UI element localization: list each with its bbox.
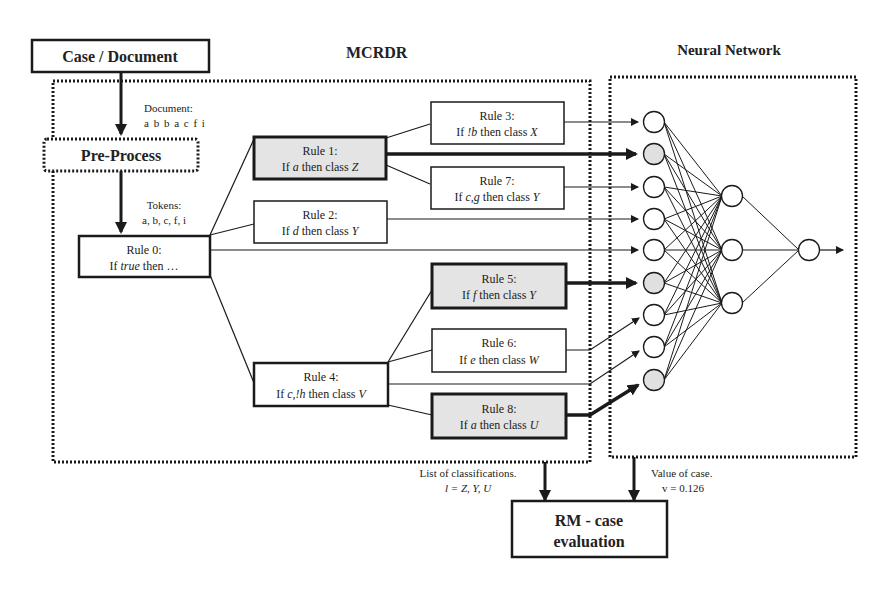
input-node-active <box>644 273 665 294</box>
tokens-note-value: a, b, c, f, i <box>142 214 186 226</box>
input-node <box>644 209 665 230</box>
output-node <box>799 240 820 261</box>
rule8-condition: If a then class U <box>460 418 540 432</box>
mcrdr-title: MCRDR <box>346 44 408 61</box>
rule7-condition: If c,g then class Y <box>454 190 540 204</box>
classifications-note-label: List of classifications. <box>420 467 517 479</box>
rule7-title: Rule 7: <box>480 174 515 188</box>
rule6-box: Rule 6: If e then class W <box>432 329 566 372</box>
rule3-title: Rule 3: <box>480 109 515 123</box>
rule0-condition: If true then … <box>109 259 178 273</box>
rule2-box: Rule 2: If d then class Y <box>254 201 387 243</box>
hidden-node <box>722 293 743 314</box>
rule6-title: Rule 6: <box>482 336 517 350</box>
nn-input-hidden-edges <box>664 122 722 380</box>
tokens-note-label: Tokens: <box>147 199 182 211</box>
rule5-box: Rule 5: If f then class Y <box>432 264 566 308</box>
input-node <box>644 112 665 133</box>
rm-line1: RM - case <box>555 512 623 529</box>
nn-hidden-output-edges <box>742 196 799 303</box>
rule8-title: Rule 8: <box>482 402 517 416</box>
rule4-title: Rule 4: <box>304 370 339 384</box>
rule5-title: Rule 5: <box>482 272 517 286</box>
hidden-node <box>722 186 743 207</box>
value-note-value: v = 0.126 <box>662 482 704 494</box>
rule2-title: Rule 2: <box>303 208 338 222</box>
rm-case-evaluation-box: RM - case evaluation <box>512 501 667 557</box>
document-note-label: Document: <box>144 102 193 114</box>
rule3-condition: If !b then class X <box>456 125 538 139</box>
input-node <box>644 305 665 326</box>
input-node <box>644 240 665 261</box>
rule4-box: Rule 4: If c,!h then class V <box>254 363 388 406</box>
rule2-condition: If d then class Y <box>282 224 360 238</box>
rule6-condition: If e then class W <box>459 353 539 367</box>
rule3-box: Rule 3: If !b then class X <box>431 102 564 144</box>
conn-rule8 <box>566 385 638 415</box>
rm-line2: evaluation <box>553 533 624 550</box>
rule1-condition: If a then class Z <box>282 160 359 174</box>
input-node-active <box>644 144 665 165</box>
input-node <box>644 177 665 198</box>
rule1-title: Rule 1: <box>303 144 338 158</box>
rule7-box: Rule 7: If c,g then class Y <box>431 167 564 209</box>
rule0-title: Rule 0: <box>127 243 162 257</box>
rule0-box: Rule 0: If true then … <box>79 236 210 277</box>
rule1-box: Rule 1: If a then class Z <box>254 137 386 179</box>
pre-process-box: Pre-Process <box>44 139 198 171</box>
value-note-label: Value of case. <box>651 467 713 479</box>
rule5-condition: If f then class Y <box>462 288 537 302</box>
rule8-box: Rule 8: If a then class U <box>432 394 566 438</box>
case-document-box: Case / Document <box>32 40 209 72</box>
nn-hidden-layer <box>722 186 743 314</box>
mcrdr-neural-network-diagram: MCRDR Neural Network Case / Document Doc… <box>0 0 894 590</box>
case-document-label: Case / Document <box>62 48 178 65</box>
classifications-note-value: l = Z, Y, U <box>445 482 492 494</box>
conn-rule6 <box>566 318 639 350</box>
input-node-active <box>644 370 665 391</box>
nn-input-layer <box>644 112 665 391</box>
hidden-node <box>722 240 743 261</box>
rule4-condition: If c,!h then class V <box>276 387 367 401</box>
document-note-value: a b b a c f i <box>144 117 206 129</box>
neural-network-container <box>610 77 856 457</box>
neural-network-title: Neural Network <box>677 42 781 58</box>
pre-process-label: Pre-Process <box>81 147 161 164</box>
input-node <box>644 337 665 358</box>
